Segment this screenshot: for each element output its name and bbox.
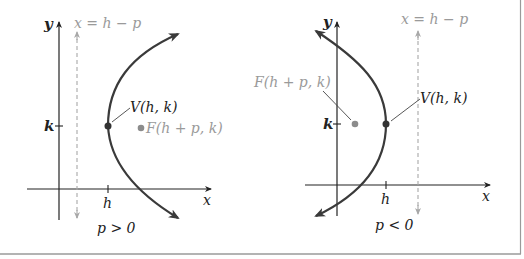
panel-caption: p > 0 [97, 220, 136, 236]
x-axis-label: x [482, 188, 490, 204]
vertex-label: V(h, k) [420, 90, 467, 106]
focus-label: F(h + p, k) [253, 74, 331, 90]
h-tick-label: h [381, 191, 390, 207]
focus-label: F(h + p, k) [145, 120, 223, 136]
vertex-leader-line [391, 99, 420, 121]
vertex-point [105, 123, 112, 130]
k-tick-label: k [44, 117, 54, 135]
h-tick-label: h [103, 195, 112, 211]
focus-point [138, 125, 145, 132]
vertex-label: V(h, k) [130, 99, 177, 115]
vertex-leader-line [112, 108, 130, 122]
y-axis-label: y [322, 13, 333, 31]
vertex-point [383, 121, 390, 128]
k-tick-label: k [323, 115, 333, 133]
x-axis-label: x [203, 192, 211, 208]
y-axis-label: y [43, 15, 54, 33]
panel-right: y x = h − p V(h, k) F(h + p, k) k h x p … [253, 11, 490, 233]
focus-point [352, 121, 359, 128]
panel-left: y x = h − p V(h, k) F(h + p, k) k h x p … [27, 15, 223, 236]
panel-caption: p < 0 [375, 217, 414, 233]
parabola-curve-lower [108, 126, 178, 218]
parabola-figure: y x = h − p V(h, k) F(h + p, k) k h x p … [0, 0, 524, 259]
directrix-label: x = h − p [74, 15, 141, 31]
directrix-label: x = h − p [401, 11, 468, 27]
parabola-curve-lower [316, 124, 386, 216]
